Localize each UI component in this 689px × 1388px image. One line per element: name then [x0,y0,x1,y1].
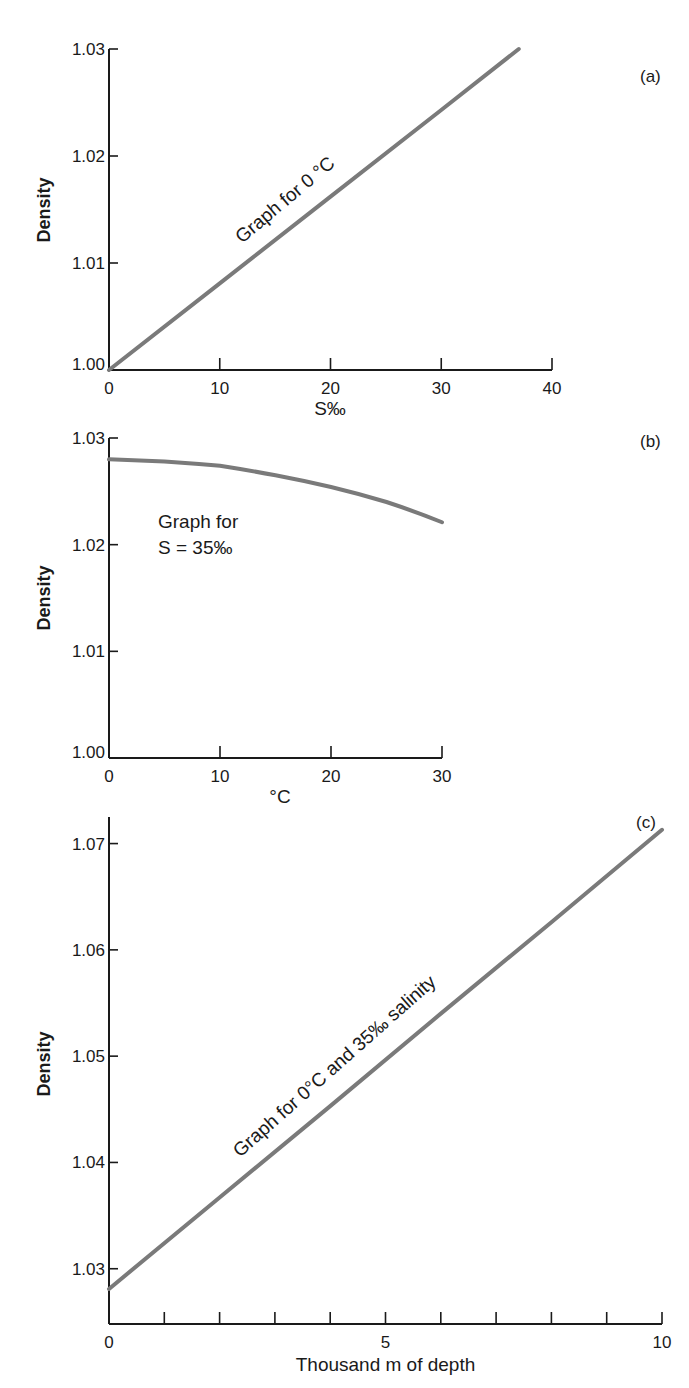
panel-label: (a) [640,67,661,86]
x-tick-label: 5 [381,1333,390,1352]
y-axis-label: Density [34,565,54,630]
y-axis-label: Density [34,177,54,242]
x-tick-label: 10 [211,767,230,786]
x-tick-label: 10 [653,1333,672,1352]
x-tick-label: 0 [104,1333,113,1352]
y-tick-label: 1.03 [72,40,105,59]
x-tick-label: 40 [543,379,562,398]
x-tick-label: 20 [322,767,341,786]
y-tick-label: 1.02 [72,536,105,555]
y-tick-label: 1.00 [72,743,105,762]
chart-b-density-vs-temperature: 1.001.011.021.030102030°CDensity(b)Graph… [34,429,661,807]
series-annotation: S = 35‰ [158,537,232,558]
y-tick-label: 1.03 [72,429,105,448]
y-tick-label: 1.06 [72,941,105,960]
x-axis-label: S‰ [314,398,346,419]
y-tick-label: 1.02 [72,147,105,166]
y-tick-label: 1.03 [72,1260,105,1279]
panel-label: (c) [636,813,656,832]
panel-label: (b) [640,432,661,451]
y-tick-label: 1.00 [72,355,105,374]
density-figure: 1.001.011.021.03010203040S‰Density(a)Gra… [0,0,689,1388]
series-annotation: Graph for [158,511,239,532]
y-tick-label: 1.05 [72,1047,105,1066]
chart-a-density-vs-salinity: 1.001.011.021.03010203040S‰Density(a)Gra… [34,40,661,419]
series-annotation: Graph for 0°C and 35‰ salinity [229,971,440,1161]
x-axis-label: Thousand m of depth [296,1354,476,1375]
y-tick-label: 1.01 [72,642,105,661]
x-axis-label: °C [269,786,290,807]
chart-c-density-vs-depth: 1.031.041.051.061.070510Thousand m of de… [34,813,671,1375]
x-tick-label: 0 [104,379,113,398]
y-tick-label: 1.07 [72,835,105,854]
y-tick-label: 1.04 [72,1153,105,1172]
x-tick-label: 20 [321,379,340,398]
x-tick-label: 0 [104,767,113,786]
y-tick-label: 1.01 [72,254,105,273]
x-tick-label: 30 [433,767,452,786]
y-axis-label: Density [34,1031,54,1096]
data-line [109,830,662,1289]
data-line [109,49,519,370]
x-tick-label: 30 [432,379,451,398]
x-tick-label: 10 [210,379,229,398]
